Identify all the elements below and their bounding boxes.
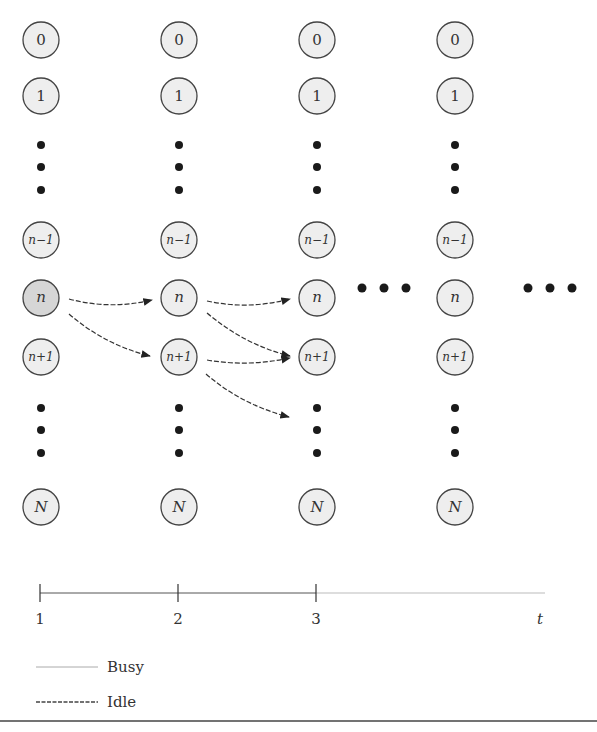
column-4: 0 1 n−1 n n+1 N (437, 22, 473, 525)
node-0: 0 (299, 22, 335, 58)
svg-text:N: N (171, 498, 186, 516)
node-0: 0 (23, 22, 59, 58)
node-N: N (299, 489, 335, 525)
svg-text:1: 1 (312, 87, 322, 105)
vertical-ellipsis-icon (313, 404, 321, 457)
svg-text:n+1: n+1 (442, 350, 467, 364)
tick-label-1: 1 (35, 610, 45, 628)
node-0: 0 (437, 22, 473, 58)
node-n: n (437, 280, 473, 316)
horizontal-ellipsis-icon (358, 284, 411, 293)
svg-text:n−1: n−1 (304, 233, 329, 247)
svg-text:n: n (174, 288, 184, 306)
legend-busy-label: Busy (107, 658, 144, 676)
vertical-ellipsis-icon (175, 141, 183, 194)
vertical-ellipsis-icon (37, 141, 45, 194)
svg-text:n−1: n−1 (28, 233, 53, 247)
svg-text:n+1: n+1 (166, 350, 191, 364)
svg-text:0: 0 (36, 31, 46, 49)
svg-text:1: 1 (36, 87, 46, 105)
svg-text:N: N (33, 498, 48, 516)
svg-text:N: N (309, 498, 324, 516)
svg-text:n+1: n+1 (304, 350, 329, 364)
vertical-ellipsis-icon (451, 141, 459, 194)
node-n-plus-1: n+1 (437, 339, 473, 375)
node-n: n (161, 280, 197, 316)
vertical-ellipsis-icon (37, 404, 45, 457)
state-transition-diagram: 0 1 n−1 n n+1 N 0 1 n−1 n n+1 N 0 1 n−1 … (0, 0, 597, 732)
node-1: 1 (161, 78, 197, 114)
horizontal-ellipsis-icon (524, 284, 577, 293)
column-3: 0 1 n−1 n n+1 N (299, 22, 335, 525)
node-0: 0 (161, 22, 197, 58)
node-n: n (299, 280, 335, 316)
node-1: 1 (437, 78, 473, 114)
node-n-minus-1: n−1 (299, 222, 335, 258)
svg-text:n−1: n−1 (166, 233, 191, 247)
tick-label-2: 2 (173, 610, 183, 628)
arrow-1n-to-2n-plus-1 (69, 314, 150, 356)
node-n-plus-1: n+1 (161, 339, 197, 375)
svg-text:n−1: n−1 (442, 233, 467, 247)
node-N: N (437, 489, 473, 525)
node-n-minus-1: n−1 (161, 222, 197, 258)
arrow-2n-plus-1-to-3n-plus-1 (207, 358, 290, 363)
tick-label-3: 3 (311, 610, 321, 628)
column-1: 0 1 n−1 n n+1 N (23, 22, 59, 525)
node-n-plus-1: n+1 (23, 339, 59, 375)
vertical-ellipsis-icon (313, 141, 321, 194)
node-n-minus-1: n−1 (437, 222, 473, 258)
vertical-ellipsis-icon (175, 404, 183, 457)
node-n-plus-1: n+1 (299, 339, 335, 375)
legend-idle-label: Idle (107, 693, 136, 711)
time-axis: 1 2 3 t (35, 584, 545, 628)
vertical-ellipsis-icon (451, 404, 459, 457)
node-n-minus-1: n−1 (23, 222, 59, 258)
svg-text:n: n (36, 288, 46, 306)
column-2: 0 1 n−1 n n+1 N (161, 22, 197, 525)
svg-text:0: 0 (312, 31, 322, 49)
node-N: N (161, 489, 197, 525)
svg-text:n: n (312, 288, 322, 306)
node-1: 1 (299, 78, 335, 114)
svg-text:1: 1 (174, 87, 184, 105)
arrow-1n-to-2n (69, 299, 152, 305)
arrow-2n-to-3n (207, 299, 290, 305)
legend: Busy Idle (36, 658, 144, 711)
node-n-busy: n (23, 280, 59, 316)
node-N: N (23, 489, 59, 525)
arrow-2n-plus-1-to-3-below (206, 374, 289, 417)
svg-text:1: 1 (450, 87, 460, 105)
arrow-2n-to-3n-plus-1 (207, 313, 290, 356)
svg-text:N: N (447, 498, 462, 516)
svg-text:0: 0 (174, 31, 184, 49)
svg-text:n: n (450, 288, 460, 306)
svg-text:0: 0 (450, 31, 460, 49)
node-1: 1 (23, 78, 59, 114)
svg-text:n+1: n+1 (28, 350, 53, 364)
axis-end-label: t (537, 610, 544, 628)
